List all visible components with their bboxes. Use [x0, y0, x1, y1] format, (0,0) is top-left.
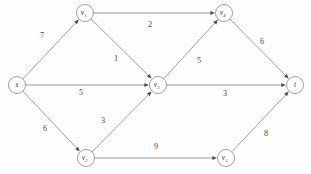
edge-weight-s-v1: 7: [40, 31, 44, 40]
edge-v1-to-v3: [91, 19, 150, 77]
edge-weight-v2-v3: 3: [101, 116, 105, 125]
edge-v4-to-t: [230, 19, 287, 77]
edge-s-to-v2: [23, 91, 78, 149]
node-t[interactable]: t: [287, 77, 304, 94]
node-v3[interactable]: v3: [150, 77, 167, 94]
arrowhead-v2-to-v5: [212, 156, 217, 160]
edge-v3-to-v4: [164, 22, 216, 79]
edge-weight-v3-t: 3: [223, 89, 227, 98]
node-v5[interactable]: v5: [218, 150, 235, 167]
arrowhead-s-to-v3: [144, 83, 149, 87]
graph-canvas: sv1v2v3v4v5t 75621395368: [0, 0, 311, 174]
node-v4[interactable]: v4: [216, 5, 233, 22]
node-label-s: s: [16, 81, 19, 89]
edge-weight-v1-v3: 1: [114, 54, 118, 63]
edge-weight-v2-v5: 9: [154, 142, 158, 151]
edge-v5-to-t: [232, 94, 287, 152]
edge-weight-v1-v4: 2: [148, 20, 152, 29]
edge-weight-v5-t: 8: [264, 129, 268, 138]
arrowhead-v1-to-v4: [210, 11, 215, 15]
node-v2[interactable]: v2: [78, 150, 95, 167]
weighted-directed-graph-figure: sv1v2v3v4v5t 75621395368: [0, 0, 311, 174]
edge-weight-v4-t: 6: [260, 37, 264, 46]
edge-weight-s-v2: 6: [43, 124, 47, 133]
node-v1[interactable]: v1: [77, 5, 94, 22]
edge-weight-v3-v4: 5: [197, 56, 201, 65]
arrowhead-v3-to-t: [281, 83, 286, 87]
node-s[interactable]: s: [9, 77, 26, 94]
node-subscript-v1: 1: [84, 13, 86, 18]
edge-s-to-v1: [23, 22, 77, 79]
edge-weight-s-v3: 5: [79, 88, 83, 97]
